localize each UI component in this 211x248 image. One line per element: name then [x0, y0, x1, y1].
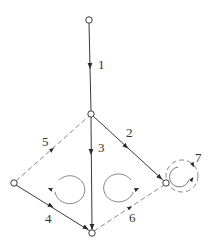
- edge-label-6: 6: [129, 210, 136, 225]
- edge-1: 1: [89, 23, 105, 111]
- node-bottom: [89, 230, 95, 236]
- edge-4: 4: [16, 185, 90, 231]
- edge-label-1: 1: [98, 57, 105, 72]
- graph-diagram: 1 3 2 4 5 6 7: [0, 0, 211, 248]
- edge-3: 3: [91, 117, 105, 230]
- edge-label-5: 5: [42, 134, 49, 149]
- loop-right-counterclockwise-icon: [104, 174, 137, 202]
- edge-label-7: 7: [195, 150, 202, 165]
- edge-label-4: 4: [45, 211, 52, 226]
- loop-left-clockwise-icon: [50, 176, 85, 204]
- edge-label-3: 3: [98, 140, 105, 155]
- node-top: [86, 17, 92, 23]
- node-left: [11, 180, 17, 186]
- edge-5: 5: [16, 116, 89, 181]
- edge-label-2: 2: [126, 125, 133, 140]
- node-right: [163, 180, 169, 186]
- node-mid: [88, 111, 94, 117]
- edge-7-self-loop: 7: [166, 150, 202, 192]
